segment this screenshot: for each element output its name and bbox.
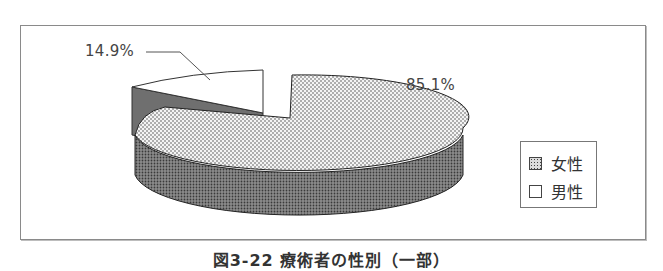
legend: 女性 男性 xyxy=(520,141,597,208)
figure-caption: 図3-22 療術者の性別（一部） xyxy=(0,247,663,271)
label-female-pct: 85.1% xyxy=(406,76,455,94)
dotted-swatch-icon xyxy=(529,157,542,170)
label-male-pct: 14.9% xyxy=(85,42,134,60)
legend-label: 男性 xyxy=(551,179,583,203)
legend-item-female: 女性 xyxy=(529,151,583,175)
white-swatch-icon xyxy=(529,185,542,198)
legend-label: 女性 xyxy=(551,151,583,175)
legend-item-male: 男性 xyxy=(529,179,583,203)
